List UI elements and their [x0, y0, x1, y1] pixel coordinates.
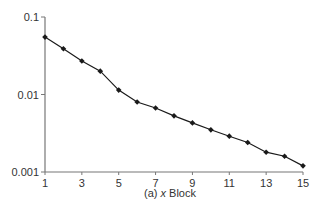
series-line	[45, 37, 303, 166]
x-tick-label: 3	[79, 177, 85, 189]
y-tick-label: 0.001	[11, 166, 39, 178]
diamond-marker-icon	[208, 127, 214, 133]
x-tick-label: 15	[297, 177, 309, 189]
diamond-marker-icon	[263, 149, 269, 155]
y-tick-label: 0.1	[24, 11, 39, 23]
diamond-marker-icon	[226, 133, 232, 139]
diamond-marker-icon	[282, 153, 288, 159]
diamond-marker-icon	[171, 113, 177, 119]
x-tick-label: 1	[42, 177, 48, 189]
diamond-marker-icon	[245, 140, 251, 146]
diamond-marker-icon	[42, 34, 48, 40]
x-tick-label: 5	[116, 177, 122, 189]
line-chart: 0.10.010.001 13579111315 (a) x Block	[0, 0, 323, 221]
diamond-marker-icon	[300, 163, 306, 169]
x-tick-label: 11	[224, 177, 235, 189]
y-tick-labels: 0.10.010.001	[11, 11, 45, 178]
diamond-marker-icon	[190, 120, 196, 126]
diamond-marker-icon	[153, 105, 159, 111]
chart-caption: (a) x Block	[144, 187, 196, 199]
y-tick-label: 0.01	[18, 89, 39, 101]
series-markers	[42, 34, 306, 168]
x-tick-label: 13	[260, 177, 272, 189]
